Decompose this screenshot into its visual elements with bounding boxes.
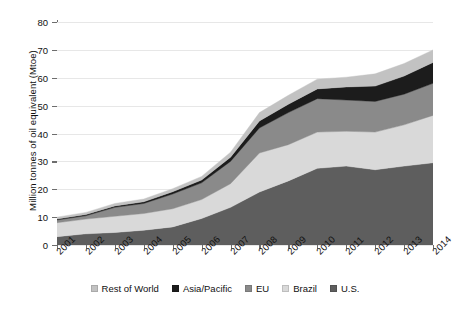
legend-label: U.S.	[341, 283, 359, 294]
y-tick-label: 40	[20, 129, 48, 140]
y-tick-label: 10	[20, 212, 48, 223]
y-tick-mark	[52, 50, 57, 51]
y-tick-mark	[52, 22, 57, 23]
y-tick-mark	[52, 134, 57, 135]
legend-item-asia-pacific[interactable]: Asia/Pacific	[172, 283, 232, 294]
legend-item-u-s[interactable]: U.S.	[330, 283, 359, 294]
y-tick-label: 70	[20, 45, 48, 56]
y-tick-label: 30	[20, 156, 48, 167]
legend-label: Brazil	[293, 283, 317, 294]
legend-swatch-icon	[330, 285, 337, 292]
legend-label: EU	[256, 283, 269, 294]
legend-item-eu[interactable]: EU	[245, 283, 269, 294]
legend-swatch-icon	[245, 285, 252, 292]
legend-label: Rest of World	[102, 283, 159, 294]
legend-item-rest-of-world[interactable]: Rest of World	[91, 283, 159, 294]
y-tick-label: 20	[20, 184, 48, 195]
y-tick-mark	[52, 161, 57, 162]
y-tick-mark	[52, 106, 57, 107]
y-tick-mark	[52, 189, 57, 190]
y-tick-label: 60	[20, 73, 48, 84]
area-series-group	[57, 22, 433, 245]
legend-swatch-icon	[91, 285, 98, 292]
plot-area	[57, 22, 433, 245]
y-tick-label: 0	[20, 240, 48, 251]
legend-item-brazil[interactable]: Brazil	[282, 283, 317, 294]
legend-label: Asia/Pacific	[183, 283, 232, 294]
chart-legend: Rest of WorldAsia/PacificEUBrazilU.S.	[0, 283, 450, 294]
y-tick-mark	[52, 217, 57, 218]
x-tick-label: 2014	[430, 233, 453, 256]
y-tick-mark	[52, 78, 57, 79]
y-tick-label: 50	[20, 101, 48, 112]
y-tick-label: 80	[20, 17, 48, 28]
legend-swatch-icon	[282, 285, 289, 292]
legend-swatch-icon	[172, 285, 179, 292]
